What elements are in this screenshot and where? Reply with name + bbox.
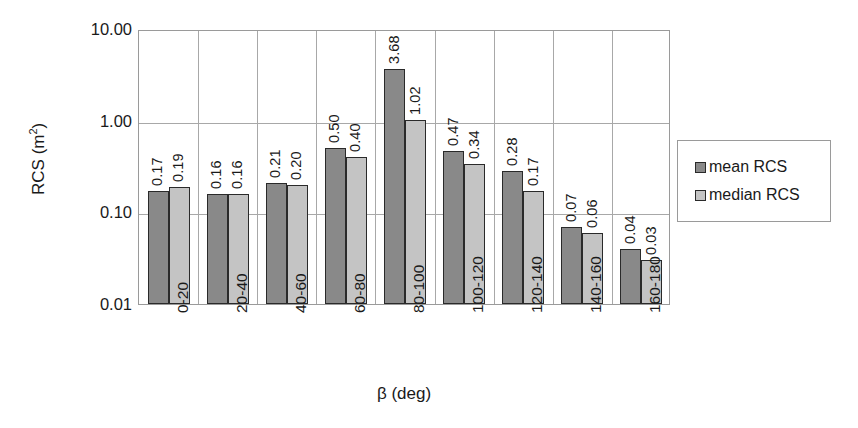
y-axis-title-main: RCS (m — [29, 135, 48, 195]
bar-group: 0.170.19 — [148, 31, 190, 304]
legend-swatch-icon — [695, 190, 706, 201]
gridline-vertical — [316, 31, 317, 304]
legend-item-label: median RCS — [709, 186, 800, 204]
gridline-vertical — [198, 31, 199, 304]
y-axis-title-superscript: 2 — [27, 128, 39, 134]
bar-value-label: 3.68 — [387, 35, 401, 64]
bar-mean[interactable] — [384, 69, 405, 304]
legend-item[interactable]: median RCS — [678, 181, 830, 209]
chart-figure: RCS (m2) 10.001.000.100.01 0.170.190.160… — [0, 0, 858, 428]
bar-value-label: 0.03 — [644, 227, 658, 256]
x-axis-tick-label: 100-120 — [470, 256, 485, 313]
gridline-vertical — [612, 31, 613, 304]
bar-mean[interactable] — [266, 183, 287, 304]
legend-item-label: mean RCS — [709, 158, 787, 176]
gridline-vertical — [494, 31, 495, 304]
gridline-vertical — [435, 31, 436, 304]
y-axis-ticks: 10.001.000.100.01 — [54, 0, 132, 428]
bar-value-label: 0.50 — [327, 115, 341, 144]
bar-value-label: 0.19 — [171, 153, 185, 182]
bar-value-label: 0.34 — [467, 130, 481, 159]
bar-value-label: 0.28 — [505, 138, 519, 167]
y-axis-title: RCS (m2) — [27, 69, 49, 249]
y-axis-tick-label: 0.01 — [60, 296, 132, 312]
bar-value-label: 1.02 — [408, 86, 422, 115]
bar-group: 0.160.16 — [207, 31, 249, 304]
bar-value-label: 0.20 — [289, 151, 303, 180]
x-axis-tick-label: 0-20 — [175, 282, 190, 313]
bar-mean[interactable] — [325, 148, 346, 304]
gridline-vertical — [375, 31, 376, 304]
y-axis-title-close: ) — [29, 123, 48, 129]
x-axis-tick-label: 80-100 — [411, 265, 426, 313]
bar-mean[interactable] — [620, 249, 641, 304]
bar-mean[interactable] — [502, 171, 523, 304]
bar-mean[interactable] — [561, 227, 582, 304]
x-axis-tick-label: 20-40 — [234, 273, 249, 313]
bar-value-label: 0.16 — [209, 160, 223, 189]
x-axis-title: β (deg) — [138, 384, 670, 404]
bar-value-label: 0.06 — [585, 199, 599, 228]
bar-group: 0.210.20 — [266, 31, 308, 304]
bar-group: 3.681.02 — [384, 31, 426, 304]
gridline-vertical — [257, 31, 258, 304]
x-axis-tick-label: 40-60 — [293, 273, 308, 313]
bar-value-label: 0.07 — [564, 193, 578, 222]
x-axis-tick-label: 160-180 — [647, 256, 662, 313]
y-axis-tick-label: 0.10 — [60, 204, 132, 220]
bar-value-label: 0.17 — [526, 158, 540, 187]
x-axis-tick-label: 60-80 — [352, 273, 367, 313]
y-axis-tick-label: 10.00 — [60, 21, 132, 37]
bar-value-label: 0.40 — [348, 124, 362, 153]
x-axis-tick-label: 120-140 — [529, 256, 544, 313]
bar-value-label: 0.04 — [623, 215, 637, 244]
bar-group: 0.500.40 — [325, 31, 367, 304]
legend-swatch-icon — [695, 162, 706, 173]
bar-value-label: 0.47 — [446, 117, 460, 146]
bar-mean[interactable] — [443, 151, 464, 304]
bar-value-label: 0.17 — [150, 158, 164, 187]
y-axis-tick-label: 1.00 — [60, 113, 132, 129]
bar-value-label: 0.21 — [268, 149, 282, 178]
bar-mean[interactable] — [148, 191, 169, 304]
x-axis-tick-label: 140-160 — [588, 256, 603, 313]
legend-item[interactable]: mean RCS — [678, 153, 830, 181]
bar-mean[interactable] — [207, 194, 228, 304]
gridline-vertical — [553, 31, 554, 304]
bar-value-label: 0.16 — [230, 160, 244, 189]
chart-legend: mean RCSmedian RCS — [677, 140, 831, 222]
